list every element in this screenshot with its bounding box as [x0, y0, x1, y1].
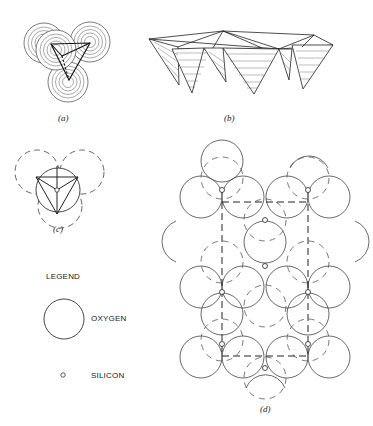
- panel-c-label: (c): [53, 224, 63, 234]
- panel-a-label: (a): [58, 113, 69, 123]
- panel-a-tetrahedron: [24, 22, 110, 102]
- silicon-symbol: [61, 373, 65, 377]
- legend: [44, 299, 84, 377]
- legend-silicon-label: SILICON: [91, 371, 124, 380]
- oxygen-symbol: [44, 299, 84, 339]
- panel-d-silicate-sheet: [162, 140, 369, 399]
- silicate-structure-figure: [0, 0, 373, 426]
- panel-c-tetrahedron-plan: [15, 150, 104, 228]
- panel-d-label: (d): [260, 404, 271, 414]
- legend-title: LEGEND: [46, 272, 80, 281]
- panel-b-tetrahedra-sheet: [149, 31, 333, 94]
- legend-oxygen-label: OXYGEN: [91, 314, 126, 323]
- panel-b-label: (b): [224, 113, 235, 123]
